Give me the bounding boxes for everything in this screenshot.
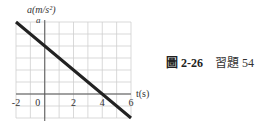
x-tick-label: 0: [35, 97, 40, 108]
x-tick-label: 6: [129, 97, 134, 108]
x-axis-label: t(s): [136, 88, 149, 100]
x-tick-label: -2: [12, 97, 20, 108]
x-tick-label: 4: [100, 97, 105, 108]
figure-caption: 圖 2-26習題 54: [166, 53, 254, 71]
y-axis-label: a(m/s²): [27, 4, 56, 16]
acceleration-time-chart: a(m/s²) a t(s) -20246: [0, 0, 150, 121]
y-marker-label: a: [36, 15, 41, 25]
figure-number: 圖 2-26: [166, 56, 203, 70]
exercise-number: 習題 54: [215, 56, 254, 70]
x-tick-label: 2: [71, 97, 76, 108]
